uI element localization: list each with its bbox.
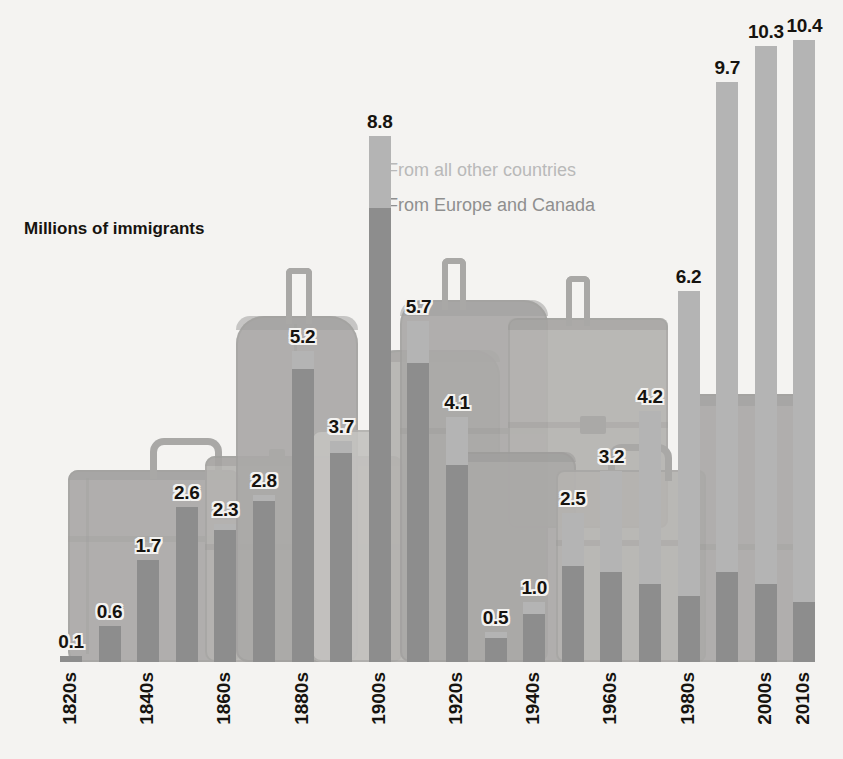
bar-segment-europe-canada — [99, 626, 121, 662]
bar-1910s[interactable]: 5.7 — [407, 321, 429, 662]
bar-segment-europe-canada — [678, 596, 700, 662]
bar-value-label: 2.3 — [213, 499, 239, 521]
bar-1890s[interactable]: 3.7 — [330, 441, 352, 662]
chart-canvas: Millions of immigrants From all other co… — [0, 0, 843, 759]
plot-area: Millions of immigrants From all other co… — [0, 0, 843, 759]
bar-segment-europe-canada — [137, 560, 159, 662]
bar-segment-europe-canada — [485, 638, 507, 662]
bar-segment-europe-canada — [446, 465, 468, 662]
bar-1860s[interactable]: 2.3 — [214, 524, 236, 662]
bar-1820s[interactable]: 0.1 — [60, 656, 82, 662]
legend-item-europe-canada: From Europe and Canada — [387, 195, 595, 216]
bar-value-label: 5.2 — [290, 326, 316, 348]
bar-value-label: 6.2 — [676, 266, 702, 288]
bar-segment-other-countries — [292, 351, 314, 369]
bar-value-label: 10.3 — [748, 21, 784, 43]
bar-value-label: 0.1 — [58, 631, 84, 653]
bar-1920s[interactable]: 4.1 — [446, 417, 468, 662]
x-tick-1900s: 1900s — [368, 672, 390, 725]
x-tick-2010s: 2010s — [792, 672, 814, 725]
bar-1990s[interactable]: 9.7 — [716, 82, 738, 662]
bar-segment-europe-canada — [562, 566, 584, 662]
bar-segment-europe-canada — [755, 584, 777, 662]
bar-value-label: 3.7 — [328, 416, 354, 438]
bar-segment-europe-canada — [369, 208, 391, 662]
bar-1980s[interactable]: 6.2 — [678, 291, 700, 662]
bar-value-label: 2.5 — [560, 488, 586, 510]
bar-2010s[interactable]: 10.4 — [793, 40, 815, 662]
x-tick-1920s: 1920s — [445, 672, 467, 725]
bar-segment-other-countries — [562, 513, 584, 567]
bar-value-label: 2.6 — [174, 482, 200, 504]
bar-segment-europe-canada — [292, 369, 314, 662]
bar-segment-europe-canada — [600, 572, 622, 662]
bar-value-label: 2.8 — [251, 470, 277, 492]
bar-segment-other-countries — [678, 291, 700, 596]
bar-segment-europe-canada — [253, 501, 275, 662]
y-axis-title: Millions of immigrants — [24, 219, 204, 239]
bar-segment-other-countries — [330, 441, 352, 453]
bar-value-label: 3.2 — [599, 446, 625, 468]
bar-1940s[interactable]: 1.0 — [523, 602, 545, 662]
bar-value-label: 0.6 — [97, 601, 123, 623]
bar-value-label: 1.7 — [135, 535, 161, 557]
bar-segment-europe-canada — [214, 530, 236, 662]
bar-segment-europe-canada — [716, 572, 738, 662]
x-tick-1940s: 1940s — [522, 672, 544, 725]
bar-segment-other-countries — [446, 417, 468, 465]
bar-segment-other-countries — [369, 136, 391, 208]
bar-value-label: 5.7 — [406, 296, 432, 318]
x-tick-1960s: 1960s — [599, 672, 621, 725]
bar-segment-other-countries — [716, 82, 738, 572]
x-tick-1980s: 1980s — [677, 672, 699, 725]
bar-segment-other-countries — [407, 321, 429, 363]
bar-1850s[interactable]: 2.6 — [176, 507, 198, 662]
bar-segment-other-countries — [793, 40, 815, 602]
x-tick-1820s: 1820s — [59, 672, 81, 725]
bar-segment-other-countries — [755, 46, 777, 584]
bar-segment-europe-canada — [60, 656, 82, 662]
bar-segment-europe-canada — [407, 363, 429, 662]
bar-2000s[interactable]: 10.3 — [755, 46, 777, 662]
bar-1870s[interactable]: 2.8 — [253, 495, 275, 662]
bar-1840s[interactable]: 1.7 — [137, 560, 159, 662]
x-tick-1880s: 1880s — [291, 672, 313, 725]
bar-segment-europe-canada — [176, 507, 198, 662]
bar-1960s[interactable]: 3.2 — [600, 471, 622, 662]
bar-1970s[interactable]: 4.2 — [639, 411, 661, 662]
bar-1880s[interactable]: 5.2 — [292, 351, 314, 662]
bar-value-label: 4.2 — [637, 386, 663, 408]
bar-1950s[interactable]: 2.5 — [562, 513, 584, 663]
legend-item-other-countries: From all other countries — [387, 160, 595, 181]
x-tick-1860s: 1860s — [213, 672, 235, 725]
bar-1930s[interactable]: 0.5 — [485, 632, 507, 662]
bar-value-label: 10.4 — [787, 15, 823, 37]
bar-segment-other-countries — [639, 411, 661, 584]
bar-value-label: 4.1 — [444, 392, 470, 414]
x-tick-1840s: 1840s — [136, 672, 158, 725]
bar-1830s[interactable]: 0.6 — [99, 626, 121, 662]
bar-value-label: 9.7 — [714, 57, 740, 79]
bar-segment-europe-canada — [330, 453, 352, 662]
bar-segment-europe-canada — [523, 614, 545, 662]
bar-segment-europe-canada — [639, 584, 661, 662]
bar-segment-europe-canada — [793, 602, 815, 662]
chart-legend: From all other countries From Europe and… — [387, 160, 595, 230]
bar-segment-other-countries — [600, 471, 622, 573]
bar-1900s[interactable]: 8.8 — [369, 136, 391, 662]
x-tick-2000s: 2000s — [754, 672, 776, 725]
bar-segment-other-countries — [523, 602, 545, 614]
bar-value-label: 0.5 — [483, 607, 509, 629]
bar-value-label: 1.0 — [521, 577, 547, 599]
bar-value-label: 8.8 — [367, 111, 393, 133]
